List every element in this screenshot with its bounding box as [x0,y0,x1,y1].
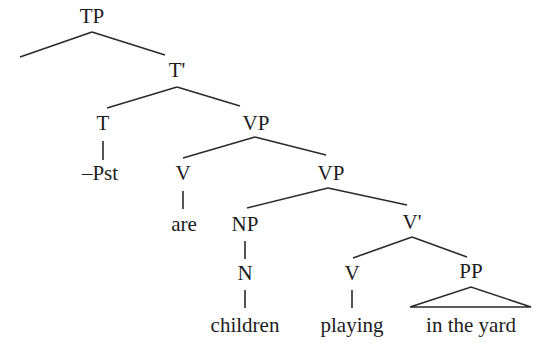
node-t: T [97,113,110,134]
branch-vbar-pp [412,237,467,257]
leaf-in-the-yard: in the yard [426,315,516,336]
leaf-pst: –Pst [82,163,118,184]
node-n: N [237,263,252,284]
node-v1: V [175,163,190,184]
branch-tbar-t [107,87,177,108]
branch-tbar-vp [177,87,240,106]
node-vp1: VP [243,113,270,134]
branch-vp2-vbar [328,188,407,205]
node-tp: TP [80,6,105,27]
leaf-playing: playing [321,315,384,336]
leaf-children: children [211,315,280,336]
branch-vp1-vp2 [255,137,326,155]
node-pp: PP [459,261,482,282]
branch-tp-spec [20,32,92,57]
branch-tp-tbar [92,32,165,55]
node-np: NP [232,214,259,235]
pp-triangle [410,287,531,307]
node-vp2: VP [318,163,345,184]
node-tbar: T' [169,60,186,81]
branch-vp1-v [183,137,255,158]
branch-vp2-np [247,188,328,208]
branch-vbar-v [353,237,412,258]
leaf-are: are [171,214,197,235]
node-vbar: V' [403,212,422,233]
syntax-tree-diagram: TP T' T VP –Pst V VP are NP V' N V PP ch… [0,0,550,349]
node-v2: V [344,263,359,284]
